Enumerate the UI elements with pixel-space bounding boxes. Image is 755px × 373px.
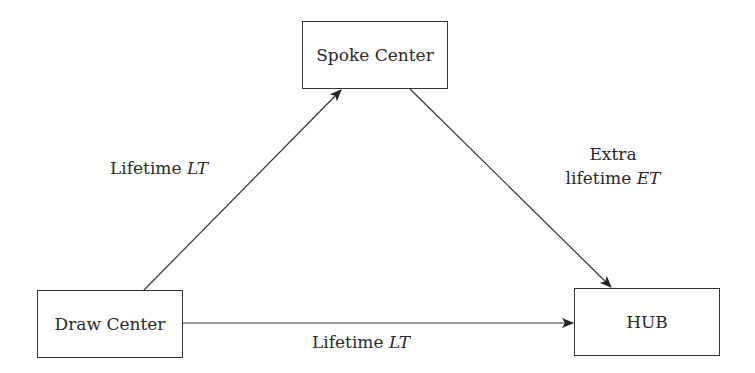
edge-label-line1: Extra: [560, 142, 666, 166]
node-draw-center: Draw Center: [37, 290, 183, 358]
node-spoke-center: Spoke Center: [302, 21, 448, 89]
edge-label-text: Lifetime: [110, 158, 187, 178]
node-hub: HUB: [574, 288, 720, 356]
edge-label-text: lifetime: [566, 168, 637, 188]
node-hub-label: HUB: [626, 312, 668, 332]
edge-label-var: ET: [637, 168, 661, 188]
edge-label-spoke-hub: Extra lifetime ET: [560, 142, 666, 190]
edge-label-var: LT: [187, 158, 208, 178]
edge-label-text: Lifetime: [312, 332, 389, 352]
node-draw-center-label: Draw Center: [55, 314, 166, 334]
edge-label-draw-hub: Lifetime LT: [312, 330, 410, 354]
node-spoke-center-label: Spoke Center: [316, 45, 434, 65]
edge-draw-to-spoke: [144, 90, 341, 290]
edge-label-var: LT: [389, 332, 410, 352]
edge-label-draw-spoke: Lifetime LT: [110, 156, 208, 180]
